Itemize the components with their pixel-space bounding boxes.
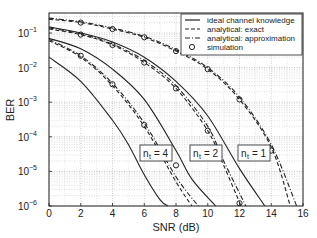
x-tick-label: 0 xyxy=(46,208,52,219)
curve-dashed xyxy=(49,41,192,206)
annotation-subscript: t xyxy=(199,153,201,160)
y-tick-label: 10 xyxy=(18,63,30,74)
legend: ideal channel knowledge analytical: exac… xyxy=(181,14,302,55)
y-tick-exponent: −6 xyxy=(29,199,37,206)
x-tick-label: 2 xyxy=(78,208,84,219)
x-tick-label: 4 xyxy=(110,208,116,219)
y-tick-exponent: −2 xyxy=(29,61,37,68)
y-axis-label: BER xyxy=(4,99,16,122)
annotation-subscript: t xyxy=(247,153,249,160)
y-tick-exponent: −3 xyxy=(29,95,37,102)
y-tick-label: 10 xyxy=(18,28,30,39)
annotation-label: n xyxy=(241,148,247,159)
x-tick-label: 10 xyxy=(202,208,214,219)
x-tick-label: 16 xyxy=(297,208,309,219)
ber-chart: 024681012141610−110−210−310−410−510−6 SN… xyxy=(0,0,317,238)
x-axis-label: SNR (dB) xyxy=(152,221,199,233)
x-tick-label: 8 xyxy=(173,208,179,219)
annotation-subscript: t xyxy=(149,153,151,160)
annotation-label: n xyxy=(143,148,149,159)
x-tick-label: 12 xyxy=(234,208,246,219)
y-tick-label: 10 xyxy=(18,166,30,177)
legend-label-simulation: simulation xyxy=(207,43,243,52)
legend-label-ideal: ideal channel knowledge xyxy=(207,16,295,25)
x-tick-label: 6 xyxy=(141,208,147,219)
annotation-label: n xyxy=(193,148,199,159)
x-tick-label: 14 xyxy=(266,208,278,219)
y-tick-label: 10 xyxy=(18,97,30,108)
annotation-value: = 4 xyxy=(154,148,169,159)
y-tick-exponent: −1 xyxy=(29,26,37,33)
y-tick-exponent: −4 xyxy=(29,130,37,137)
annotation-value: = 2 xyxy=(204,148,219,159)
y-tick-label: 10 xyxy=(18,201,30,212)
annotation-value: = 1 xyxy=(252,148,267,159)
curve-solid xyxy=(49,38,216,206)
legend-label-approx: analytical: approximation xyxy=(207,34,295,43)
legend-label-exact: analytical: exact xyxy=(207,25,265,34)
annotations: nt= 4nt= 2nt= 1 xyxy=(140,145,270,161)
y-tick-exponent: −5 xyxy=(29,164,37,171)
y-tick-label: 10 xyxy=(18,132,30,143)
